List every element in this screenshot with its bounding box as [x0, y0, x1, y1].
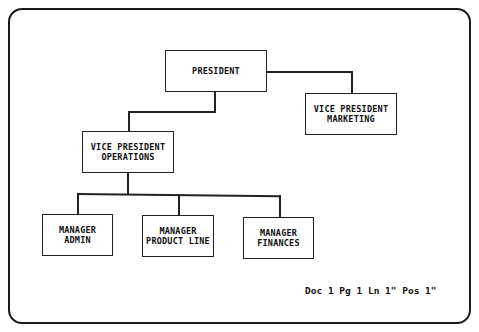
node-label-line1: MANAGER	[159, 226, 196, 236]
node-manager-admin: MANAGER ADMIN	[42, 214, 113, 256]
node-label-line2: FINANCES	[257, 238, 300, 248]
connector-operations-down	[127, 173, 129, 194]
node-label-line2: PRODUCT LINE	[146, 236, 210, 246]
connector-product-line-drop	[178, 194, 180, 215]
node-manager-product-line: MANAGER PRODUCT LINE	[142, 215, 214, 257]
node-label-line1: VICE PRESIDENT	[314, 104, 388, 114]
status-bar: Doc 1 Pg 1 Ln 1" Pos 1"	[305, 285, 437, 296]
connector-operations-up	[128, 111, 130, 131]
connector-president-down	[214, 92, 216, 112]
node-label: PRESIDENT	[192, 66, 240, 76]
node-label-line1: MANAGER	[59, 225, 96, 235]
node-label-line2: ADMIN	[64, 235, 91, 245]
node-president: PRESIDENT	[165, 50, 267, 92]
node-vp-operations: VICE PRESIDENT OPERATIONS	[82, 131, 174, 173]
connector-president-to-operations-h	[128, 111, 216, 113]
node-label-line1: MANAGER	[260, 228, 297, 238]
node-label-line1: VICE PRESIDENT	[91, 142, 165, 152]
node-manager-finances: MANAGER FINANCES	[243, 217, 314, 259]
connector-finances-drop	[279, 195, 281, 217]
connector-president-to-marketing-h	[266, 71, 352, 73]
node-vp-marketing: VICE PRESIDENT MARKETING	[305, 93, 397, 135]
connector-admin-drop	[77, 193, 79, 214]
node-label-line2: OPERATIONS	[101, 152, 154, 162]
node-label-line2: MARKETING	[327, 114, 375, 124]
connector-president-to-marketing-v	[351, 71, 353, 93]
